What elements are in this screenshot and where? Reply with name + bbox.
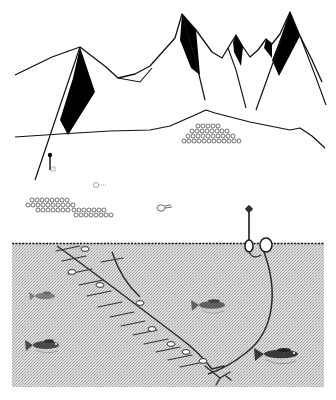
hook	[96, 283, 104, 288]
hook	[68, 270, 76, 275]
water-fill	[12, 243, 324, 387]
hook	[182, 350, 190, 355]
hook	[136, 301, 144, 306]
hook	[148, 327, 156, 332]
buoy-float-secondary	[260, 238, 272, 252]
illustration-canvas: Bottom-set longline with surface marker …	[0, 0, 336, 400]
buoy-float-primary	[245, 240, 253, 252]
hook	[167, 342, 175, 347]
hook	[199, 359, 207, 364]
water-body	[12, 243, 324, 387]
hook	[81, 247, 89, 252]
longline-illustration-svg	[0, 0, 336, 400]
